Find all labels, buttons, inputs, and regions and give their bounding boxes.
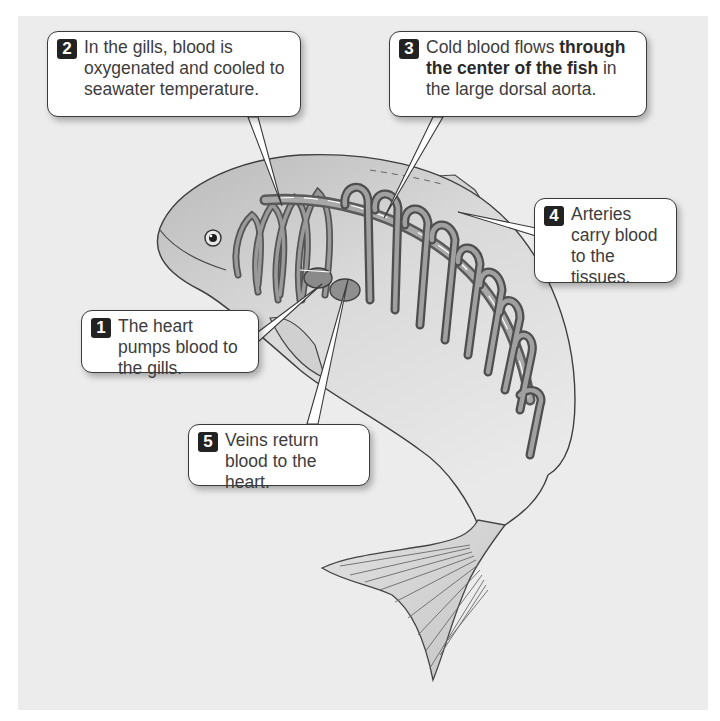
step-badge-3: 3 <box>399 39 419 59</box>
step-badge-4: 4 <box>544 206 564 226</box>
callout-1-heart: 1 The heart pumps blood to the gills. <box>81 310 259 373</box>
callout-5-veins: 5 Veins return blood to the heart. <box>188 424 370 486</box>
callout-5-text: Veins return blood to the heart. <box>225 430 318 492</box>
callout-3-text-before: Cold blood flows <box>426 37 559 57</box>
step-badge-1: 1 <box>91 318 111 338</box>
callout-4-arteries: 4 Arteries carry blood to the tissues. <box>534 198 677 283</box>
eye-icon <box>205 230 221 246</box>
callout-3-dorsal-aorta: 3 Cold blood flows through the center of… <box>389 31 647 117</box>
step-badge-5: 5 <box>198 432 218 452</box>
callout-2-gills: 2 In the gills, blood is oxygenated and … <box>47 31 301 117</box>
caudal-fin <box>322 520 505 680</box>
callout-4-text: Arteries carry blood to the tissues. <box>571 204 658 287</box>
step-badge-2: 2 <box>57 39 77 59</box>
callout-2-text: In the gills, blood is oxygenated and co… <box>84 37 284 99</box>
callout-1-text: The heart pumps blood to the gills. <box>118 316 238 378</box>
